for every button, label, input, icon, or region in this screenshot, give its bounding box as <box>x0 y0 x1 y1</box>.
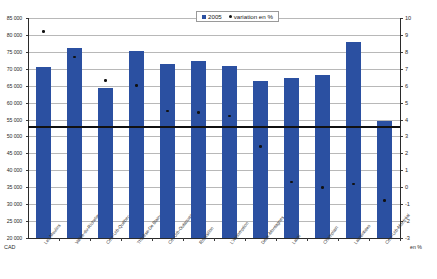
gridline <box>28 103 400 104</box>
left-axis-unit-label: CAD <box>4 244 15 250</box>
x-axis-tick <box>90 238 91 241</box>
bar <box>284 78 298 238</box>
gridline <box>28 170 400 171</box>
gridline <box>28 153 400 154</box>
gridline <box>28 86 400 87</box>
square-marker-icon <box>202 15 206 19</box>
y-axis-tick-label: 70 000 <box>0 66 22 72</box>
gridline <box>28 35 400 36</box>
x-axis-tick <box>214 238 215 241</box>
gridline <box>28 136 400 137</box>
legend-item-variation: variation en % <box>229 13 273 20</box>
axis-right <box>400 18 401 238</box>
right-axis-tick-label: 2 <box>405 150 408 156</box>
bar <box>191 61 205 238</box>
gridline <box>28 204 400 205</box>
bar <box>67 48 81 238</box>
bar <box>160 64 174 238</box>
x-axis-tick <box>152 238 153 241</box>
right-axis-tick-label: 6 <box>405 83 408 89</box>
right-axis-tick-label: -1 <box>405 201 410 207</box>
x-axis-tick <box>121 238 122 241</box>
bar <box>377 121 391 238</box>
right-axis-tick-label: -3 <box>405 235 410 241</box>
right-axis-tick-label: 3 <box>405 133 408 139</box>
y-axis-tick-label: 45 000 <box>0 150 22 156</box>
data-point-marker <box>259 145 262 148</box>
y-axis-tick-label: 85 000 <box>0 15 22 21</box>
data-point-marker <box>104 79 107 82</box>
legend-item-2005: 2005 <box>202 13 222 20</box>
chart-figure: CAD en % 2005 variation en % 20 00025 00… <box>0 0 437 279</box>
y-axis-tick-label: 25 000 <box>0 218 22 224</box>
right-axis-tick-label: 0 <box>405 184 408 190</box>
right-axis-tick-label: 8 <box>405 49 408 55</box>
plot-area <box>28 18 400 238</box>
y-axis-tick-label: 35 000 <box>0 184 22 190</box>
y-axis-tick-label: 80 000 <box>0 32 22 38</box>
y-axis-tick-label: 20 000 <box>0 235 22 241</box>
data-point-marker <box>383 199 386 202</box>
x-axis-tick <box>369 238 370 241</box>
x-axis-tick <box>400 238 401 241</box>
right-axis-tick-label: 7 <box>405 66 408 72</box>
right-axis-tick-label: 9 <box>405 32 408 38</box>
bar <box>98 88 112 238</box>
x-axis-tick <box>183 238 184 241</box>
gridline <box>28 52 400 53</box>
bar <box>315 75 329 238</box>
data-point-marker <box>135 84 138 87</box>
data-point-marker <box>73 56 76 59</box>
y-axis-tick-label: 75 000 <box>0 49 22 55</box>
legend-label: variation en % <box>234 13 273 20</box>
bar <box>36 67 50 238</box>
right-axis-unit-label: en % <box>410 244 422 250</box>
data-point-marker <box>321 186 324 189</box>
x-axis-tick <box>338 238 339 241</box>
bar <box>346 42 360 238</box>
bar <box>253 81 267 238</box>
right-axis-tick-label: 1 <box>405 167 408 173</box>
y-axis-tick-label: 65 000 <box>0 83 22 89</box>
chart-legend: 2005 variation en % <box>196 11 279 22</box>
right-axis-tick-label: 5 <box>405 100 408 106</box>
right-axis-tick-label: 4 <box>405 117 408 123</box>
right-axis-tick-label: 10 <box>405 15 411 21</box>
y-axis-tick-label: 30 000 <box>0 201 22 207</box>
dot-marker-icon <box>229 15 232 18</box>
y-axis-tick-label: 60 000 <box>0 100 22 106</box>
gridline <box>28 221 400 222</box>
y-axis-tick-label: 55 000 <box>0 117 22 123</box>
data-point-marker <box>352 183 355 186</box>
legend-label: 2005 <box>208 13 222 20</box>
y-axis-tick-label: 40 000 <box>0 167 22 173</box>
x-axis-tick <box>59 238 60 241</box>
x-axis-tick <box>245 238 246 241</box>
gridline <box>28 187 400 188</box>
y-axis-tick-label: 50 000 <box>0 133 22 139</box>
bar <box>129 51 143 238</box>
x-axis-tick <box>307 238 308 241</box>
data-point-marker <box>42 30 45 33</box>
bar <box>222 66 236 238</box>
reference-line <box>28 126 400 128</box>
gridline <box>28 69 400 70</box>
x-axis-tick <box>276 238 277 241</box>
axis-left <box>28 18 29 238</box>
gridline <box>28 120 400 121</box>
data-point-marker <box>197 111 200 114</box>
